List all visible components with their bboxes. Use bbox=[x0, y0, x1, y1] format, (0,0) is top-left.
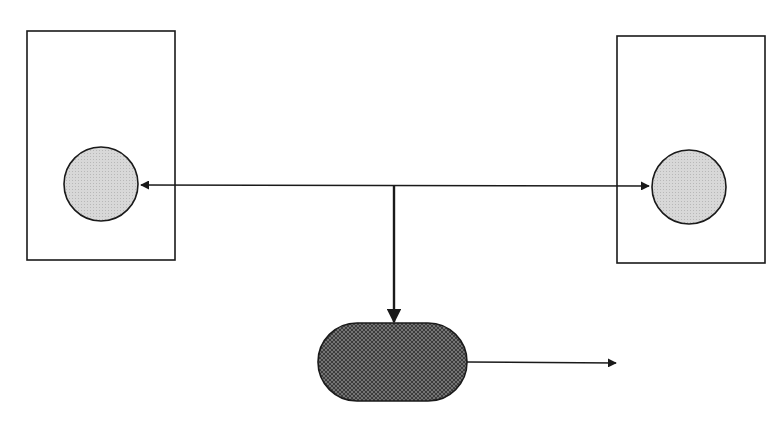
output-arrow bbox=[467, 362, 616, 363]
left-circle bbox=[64, 147, 138, 221]
left-box bbox=[27, 31, 175, 260]
right-box bbox=[617, 36, 765, 263]
center-pill bbox=[318, 323, 467, 401]
diagram-canvas bbox=[0, 0, 783, 424]
right-circle bbox=[652, 150, 726, 224]
